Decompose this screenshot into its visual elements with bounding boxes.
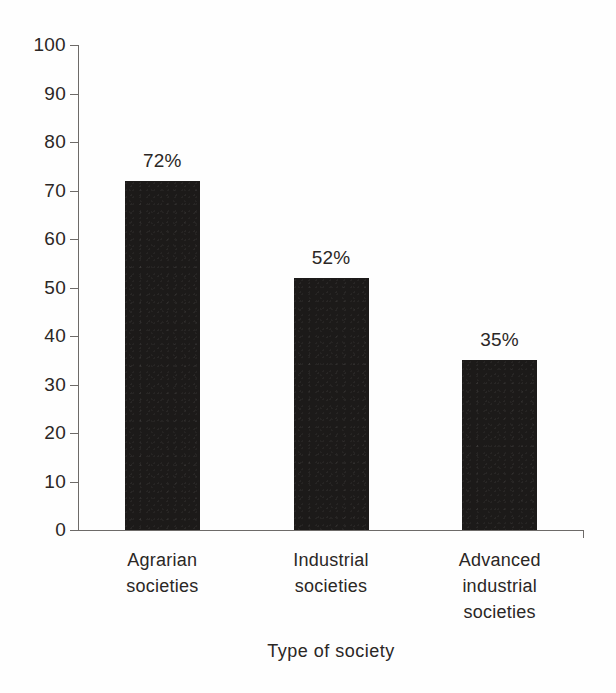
y-axis-label-10: 10	[4, 472, 66, 491]
x-axis-category-label: Advancedindustrialsocieties	[416, 547, 584, 625]
y-axis-tick-60	[70, 239, 79, 240]
y-axis-tick-0	[70, 530, 79, 531]
bar	[125, 181, 200, 530]
x-axis-end-tick	[583, 530, 584, 538]
y-axis-tick-40	[70, 336, 79, 337]
y-axis-label-30: 30	[4, 375, 66, 394]
y-axis-tick-90	[70, 94, 79, 95]
bar-value-label: 72%	[102, 150, 222, 171]
y-axis-tick-10	[70, 482, 79, 483]
x-axis-line	[78, 530, 584, 531]
bar-chart: 1009080706050403020100 72%52%35% Agraria…	[0, 0, 616, 693]
category-label-line: Advanced	[416, 547, 584, 573]
bar-value-label: 35%	[440, 329, 560, 350]
y-axis-label-60: 60	[4, 229, 66, 248]
bar	[294, 278, 369, 530]
y-axis-tick-30	[70, 385, 79, 386]
y-axis-label-50: 50	[4, 278, 66, 297]
category-label-line: Industrial	[247, 547, 415, 573]
x-axis-category-label: Industrialsocieties	[247, 547, 415, 599]
category-label-line: societies	[416, 599, 584, 625]
y-axis-tick-100	[70, 45, 79, 46]
y-axis-tick-50	[70, 288, 79, 289]
y-axis-label-80: 80	[4, 132, 66, 151]
category-label-line: industrial	[416, 573, 584, 599]
bar-value-label: 52%	[271, 247, 391, 268]
y-axis-label-90: 90	[4, 84, 66, 103]
x-axis-title: Type of society	[78, 640, 584, 662]
y-axis-label-20: 20	[4, 423, 66, 442]
y-axis-label-40: 40	[4, 326, 66, 345]
bar	[462, 360, 537, 530]
category-label-line: Agrarian	[78, 547, 246, 573]
y-axis-label-0: 0	[4, 520, 66, 539]
category-label-line: societies	[78, 573, 246, 599]
y-axis-tick-20	[70, 433, 79, 434]
y-axis-tick-70	[70, 191, 79, 192]
y-axis-tick-80	[70, 142, 79, 143]
y-axis-label-70: 70	[4, 181, 66, 200]
y-axis-label-100: 100	[4, 35, 66, 54]
x-axis-category-label: Agrariansocieties	[78, 547, 246, 599]
category-label-line: societies	[247, 573, 415, 599]
